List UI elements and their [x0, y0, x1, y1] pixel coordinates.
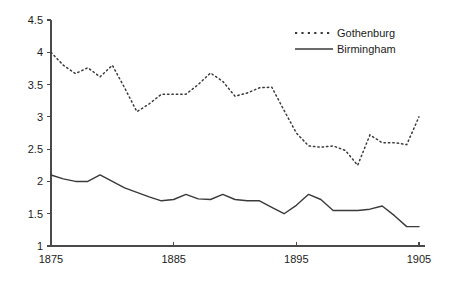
y-tick-label: 1.5	[28, 208, 43, 220]
x-tick-label: 1885	[161, 253, 185, 265]
line-chart: 11.522.533.544.5 1875188518951905 Gothen…	[0, 0, 458, 281]
x-axis: 1875188518951905	[39, 242, 431, 265]
data-series-group	[51, 52, 419, 226]
y-axis-tick-labels: 11.522.533.544.5	[28, 14, 43, 252]
y-tick-label: 3	[37, 111, 43, 123]
series-line-gothenburg	[51, 52, 419, 165]
y-tick-label: 4.5	[28, 14, 43, 26]
chart-legend: Gothenburg Birmingham	[295, 27, 396, 55]
y-axis: 11.522.533.544.5	[28, 14, 51, 252]
series-line-birmingham	[51, 175, 419, 227]
chart-canvas: 11.522.533.544.5 1875188518951905 Gothen…	[0, 0, 458, 281]
y-tick-label: 1	[37, 240, 43, 252]
x-axis-tick-labels: 1875188518951905	[39, 253, 431, 265]
y-tick-label: 3.5	[28, 79, 43, 91]
y-tick-label: 2	[37, 175, 43, 187]
y-tick-label: 2.5	[28, 143, 43, 155]
x-tick-label: 1905	[407, 253, 431, 265]
y-tick-label: 4	[37, 46, 43, 58]
legend-label-birmingham: Birmingham	[337, 43, 396, 55]
legend-label-gothenburg: Gothenburg	[337, 27, 395, 39]
x-tick-label: 1895	[284, 253, 308, 265]
x-tick-label: 1875	[39, 253, 63, 265]
